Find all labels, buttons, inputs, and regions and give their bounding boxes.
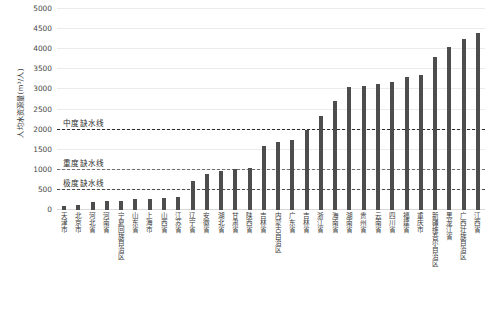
x-tick-label: 重庆市	[417, 213, 425, 234]
x-tick-label: 北京市	[74, 213, 82, 234]
bar	[319, 116, 323, 210]
x-tick-label: 广东省	[288, 213, 296, 234]
y-tick-500: 500	[18, 186, 52, 193]
bar	[347, 87, 351, 210]
bar	[148, 199, 152, 210]
x-tick-label: 辽宁省	[189, 213, 197, 234]
bar	[305, 130, 309, 210]
bar-series	[57, 9, 485, 210]
bar	[219, 171, 223, 210]
bar	[419, 75, 423, 210]
y-tick-1000: 1000	[18, 166, 52, 173]
bar	[276, 142, 280, 210]
y-tick-2500: 2500	[18, 106, 52, 113]
x-tick-label: 河北省	[89, 213, 97, 234]
bar	[290, 140, 294, 210]
x-tick-label: 山东省	[131, 213, 139, 234]
x-tick-label: 福建省	[403, 213, 411, 234]
y-tick-4500: 4500	[18, 25, 52, 32]
bar	[376, 84, 380, 210]
bar	[233, 169, 237, 210]
x-tick-label: 江西省	[474, 213, 482, 234]
bar	[447, 47, 451, 210]
x-tick-label: 宁夏回族自治区	[117, 213, 125, 261]
x-axis-tick-labels: 天津市北京市河北省河南省宁夏回族自治区山东省上海市山西省江苏省辽宁省安徽省湖北省…	[57, 213, 485, 309]
bar	[76, 205, 80, 210]
x-tick-label: 浙江省	[317, 213, 325, 234]
x-tick-label: 湖南省	[345, 213, 353, 234]
bar	[105, 201, 109, 210]
x-tick-label: 山西省	[160, 213, 168, 234]
x-tick-label: 江苏省	[174, 213, 182, 234]
x-tick-label: 吉林省	[303, 213, 311, 234]
bar	[62, 206, 66, 210]
y-tick-0: 0	[18, 206, 52, 213]
bar	[462, 39, 466, 210]
bar	[119, 201, 123, 210]
y-tick-3000: 3000	[18, 85, 52, 92]
x-tick-label: 天津市	[60, 213, 68, 234]
bar	[476, 33, 480, 210]
bar	[191, 181, 195, 210]
bar	[248, 168, 252, 210]
y-tick-5000: 5000	[18, 5, 52, 12]
bar	[433, 57, 437, 210]
x-tick-label: 吉林省	[260, 213, 268, 234]
x-tick-label: 四川省	[388, 213, 396, 234]
bar	[162, 198, 166, 210]
x-tick-label: 黑龙江省	[445, 213, 453, 240]
bar	[405, 77, 409, 210]
bar	[362, 86, 366, 210]
bar	[262, 146, 266, 210]
x-tick-label: 新疆维吾尔自治区	[431, 213, 439, 268]
bar	[91, 202, 95, 210]
bar	[205, 174, 209, 210]
x-tick-label: 上海市	[146, 213, 154, 234]
x-tick-label: 云南省	[374, 213, 382, 234]
x-tick-label: 广西壮族自治区	[460, 213, 468, 261]
bar	[333, 101, 337, 210]
bar	[133, 199, 137, 210]
y-axis-tick-labels: 0500100015002000250030003500400045005000	[14, 0, 52, 311]
y-tick-2000: 2000	[18, 126, 52, 133]
x-tick-label: 海南省	[331, 213, 339, 234]
y-tick-4000: 4000	[18, 45, 52, 52]
x-tick-label: 河南省	[103, 213, 111, 234]
x-tick-label: 安徽省	[203, 213, 211, 234]
y-tick-1500: 1500	[18, 146, 52, 153]
x-tick-label: 贵州省	[360, 213, 368, 234]
bar	[176, 197, 180, 210]
y-tick-3500: 3500	[18, 65, 52, 72]
x-tick-label: 陕西省	[246, 213, 254, 234]
plot-area: 中度缺水线重度缺水线极度缺水线	[57, 9, 485, 210]
x-tick-label: 湖北省	[217, 213, 225, 234]
bar	[390, 82, 394, 210]
x-tick-label: 甘肃省	[231, 213, 239, 234]
water-resource-bar-chart: 人均水资源量(m³/人) 050010001500200025003000350…	[0, 0, 492, 311]
x-tick-label: 内蒙古自治区	[274, 213, 282, 254]
